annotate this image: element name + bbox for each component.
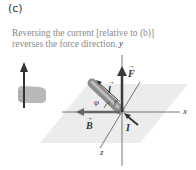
force-diagram	[0, 0, 196, 170]
field-label: → B	[86, 120, 93, 131]
x-axis-label: x	[183, 106, 187, 116]
z-axis-label: z	[100, 147, 104, 157]
force-label: → F	[128, 68, 135, 79]
y-axis-label: y	[119, 38, 123, 48]
length-label: → l	[108, 84, 111, 95]
angle-label: φ	[94, 97, 99, 107]
xz-plane	[40, 84, 188, 143]
right-hand-rule-icon	[18, 62, 46, 108]
current-label: I	[126, 122, 130, 133]
